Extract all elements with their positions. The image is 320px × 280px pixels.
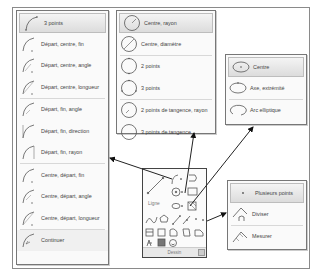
connector-arrows (0, 0, 320, 280)
